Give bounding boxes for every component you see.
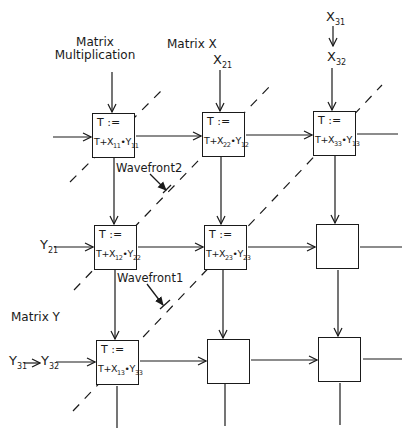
cell-expression: T+X33•Y13 — [315, 134, 359, 147]
cell-r2c3 — [316, 224, 359, 269]
cell-assign: T := — [101, 344, 124, 356]
expr-ysub: 12 — [241, 141, 248, 149]
input-x32-base: X — [327, 49, 336, 64]
cell-r1c1: T := T+X11•Y11 — [92, 113, 135, 158]
cell-expression: T+X11•Y11 — [94, 136, 138, 149]
expr-t: T+X — [315, 134, 334, 145]
input-y21-base: Y — [40, 237, 48, 252]
expr-ysub: 23 — [243, 254, 250, 262]
cell-assign: T := — [207, 116, 230, 128]
input-x32: X32 — [327, 50, 346, 65]
matrix-x-label: Matrix X — [167, 38, 217, 51]
wavefront2-label: Wavefront2 — [116, 162, 182, 175]
cell-assign: T := — [99, 229, 122, 241]
input-x31-base: X — [326, 9, 335, 24]
wavefront1-pointer — [147, 284, 163, 305]
expr-xsub: 12 — [115, 254, 122, 262]
cell-expression: T+X13•Y33 — [98, 363, 142, 376]
expr-xsub: 33 — [334, 140, 341, 148]
wavefront1-label: Wavefront1 — [117, 272, 183, 285]
cell-r3c1: T := T+X13•Y33 — [96, 340, 139, 385]
expr-t: T+X — [98, 363, 117, 374]
input-y31-base: Y — [9, 353, 17, 368]
expr-xsub: 22 — [223, 141, 230, 149]
cell-expression: T+X22•Y12 — [204, 135, 248, 148]
wavefront2-pointer — [150, 174, 166, 190]
expr-t: T+X — [206, 248, 225, 259]
input-x31-sub: 31 — [335, 18, 345, 27]
label-line-2: Multiplication — [52, 49, 138, 62]
cell-expression: T+X12•Y22 — [96, 248, 140, 261]
expr-ysub: 13 — [352, 140, 359, 148]
cell-expression: T+X23•Y23 — [206, 248, 250, 261]
input-y32-base: Y — [41, 353, 49, 368]
expr-t: T+X — [94, 136, 113, 147]
input-y21: Y21 — [40, 238, 58, 253]
matrix-multiplication-label: Matrix Multiplication — [52, 36, 138, 62]
cell-assign: T := — [318, 115, 341, 127]
expr-ysub: 11 — [131, 142, 138, 150]
expr-xsub: 13 — [117, 369, 124, 377]
expr-ysub: 33 — [135, 369, 142, 377]
expr-ysub: 22 — [133, 254, 140, 262]
input-x21-sub: 21 — [222, 61, 232, 70]
cell-r1c2: T := T+X22•Y12 — [202, 112, 245, 157]
cell-r1c3: T := T+X33•Y13 — [313, 111, 356, 156]
input-x31: X31 — [326, 10, 345, 25]
input-x21-base: X — [213, 52, 222, 67]
input-y32-sub: 32 — [49, 362, 59, 371]
input-y31-sub: 31 — [17, 362, 27, 371]
input-x21: X21 — [213, 53, 232, 68]
wavefront1-tick — [160, 300, 170, 309]
cell-r3c3 — [318, 337, 361, 382]
cell-assign: T := — [209, 229, 232, 241]
input-y32: Y32 — [41, 354, 59, 369]
input-y31: Y31 — [9, 354, 27, 369]
input-y21-sub: 21 — [48, 246, 58, 255]
cell-assign: T := — [97, 117, 120, 129]
expr-xsub: 23 — [225, 254, 232, 262]
cell-r2c2: T := T+X23•Y23 — [204, 225, 247, 270]
cell-r3c2 — [207, 339, 250, 384]
expr-xsub: 11 — [113, 142, 120, 150]
expr-t: T+X — [96, 248, 115, 259]
cell-r2c1: T := T+X12•Y22 — [94, 225, 137, 270]
expr-t: T+X — [204, 135, 223, 146]
input-x32-sub: 32 — [336, 58, 346, 67]
matrix-y-label: Matrix Y — [11, 311, 60, 324]
